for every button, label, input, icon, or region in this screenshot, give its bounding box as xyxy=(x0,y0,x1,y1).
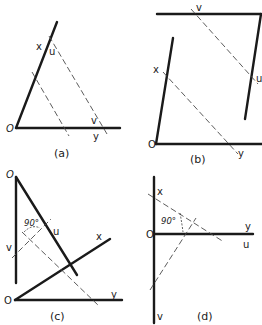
label-y: y xyxy=(238,148,244,159)
dashed-projection-uv xyxy=(49,36,107,134)
panel-b: O x v u y (b) xyxy=(148,2,262,166)
right-line xyxy=(245,14,261,119)
label-x: x xyxy=(96,231,102,242)
label-v: v xyxy=(91,115,97,126)
label-v: v xyxy=(157,311,163,322)
label-u: u xyxy=(256,73,262,84)
dashed-projection-line xyxy=(32,72,69,136)
caption-d: (d) xyxy=(197,310,213,323)
label-origin-top: O xyxy=(6,169,14,180)
label-v: v xyxy=(6,242,12,253)
diagram-figure: O x u v y (a) O x v u y (b) O O 90° u v … xyxy=(0,0,262,325)
label-x: x xyxy=(157,186,163,197)
label-y: y xyxy=(93,131,99,142)
caption-a: (a) xyxy=(54,147,69,160)
axis-x-line xyxy=(16,22,57,128)
caption-b: (b) xyxy=(190,153,206,166)
label-v: v xyxy=(196,2,202,13)
label-x: x xyxy=(36,41,42,52)
label-origin: O xyxy=(148,139,156,150)
axis-x-line xyxy=(156,38,173,144)
label-origin: O xyxy=(6,123,14,134)
dashed-perpendicular xyxy=(150,218,196,290)
label-u: u xyxy=(243,239,249,250)
label-u: u xyxy=(53,226,59,237)
dashed-projection-uv xyxy=(191,9,258,84)
panel-d: O x 90° y u v (d) xyxy=(146,177,253,323)
dashed-projection xyxy=(22,232,99,306)
label-origin: O xyxy=(146,229,154,240)
label-y: y xyxy=(111,289,117,300)
panel-c: O O 90° u v x y (c) xyxy=(4,169,122,323)
dashed-projection-xy xyxy=(163,72,238,154)
label-y: y xyxy=(245,221,251,232)
label-u: u xyxy=(49,46,55,57)
label-x: x xyxy=(153,64,159,75)
caption-c: (c) xyxy=(50,310,65,323)
label-angle-90: 90° xyxy=(24,218,39,228)
label-origin-bottom: O xyxy=(4,295,12,306)
panel-a: O x u v y (a) xyxy=(6,22,120,160)
label-angle-90: 90° xyxy=(161,216,176,226)
axis-x-line xyxy=(15,239,110,300)
